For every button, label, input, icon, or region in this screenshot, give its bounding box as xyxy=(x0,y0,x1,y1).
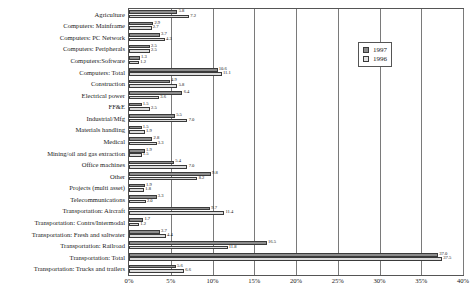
chart-row: Computers: Mainframe2.92.7 xyxy=(129,21,463,33)
bar-1997 xyxy=(129,161,174,165)
legend-item: 1996 xyxy=(363,55,387,64)
category-label: Transportation: Aircraft xyxy=(62,208,125,215)
chart-row: Agriculture5.87.2 xyxy=(129,9,463,21)
category-label: Agriculture xyxy=(95,11,125,18)
bar-1997 xyxy=(129,22,153,26)
chart-row: Computers: Total10.611.1 xyxy=(129,67,463,79)
bar-value-label: 8.2 xyxy=(199,176,205,181)
plot-area: Agriculture5.87.2Computers: Mainframe2.9… xyxy=(128,8,464,276)
bar-value-label: 7.0 xyxy=(189,164,195,169)
bar-1997 xyxy=(129,114,175,118)
chart-row: Electrical power6.43.6 xyxy=(129,90,463,102)
chart-row: Projects (multi asset)1.91.8 xyxy=(129,182,463,194)
bar-1996 xyxy=(129,223,139,227)
bar-value-label: 6.4 xyxy=(184,90,190,95)
bar-1996 xyxy=(129,38,165,42)
bar-1996 xyxy=(129,72,222,76)
bar-value-label: 2.0 xyxy=(147,199,153,204)
category-rows: Agriculture5.87.2Computers: Mainframe2.9… xyxy=(129,9,463,275)
chart-row: Materials handling1.51.9 xyxy=(129,125,463,137)
bar-1996 xyxy=(129,119,187,123)
category-label: Construction xyxy=(91,81,125,88)
category-label: Computers: PC Network xyxy=(60,35,125,42)
bar-1996 xyxy=(129,61,139,65)
bar-value-label: 1.2 xyxy=(140,60,146,65)
bar-value-label: 11.4 xyxy=(225,210,233,215)
bar-chart: Agriculture5.87.2Computers: Mainframe2.9… xyxy=(0,0,474,305)
x-axis-tick-label: 5% xyxy=(166,278,175,285)
category-label: Transportation: Total xyxy=(70,254,125,261)
chart-row: Computers:Software1.31.2 xyxy=(129,55,463,67)
chart-row: Transportation: Trucks and trailers5.66.… xyxy=(129,263,463,275)
bar-1996 xyxy=(129,153,142,157)
legend-swatch-icon xyxy=(363,47,369,53)
chart-row: Office machines5.47.0 xyxy=(129,159,463,171)
bar-1997 xyxy=(129,68,218,72)
category-label: Materials handling xyxy=(75,127,125,134)
category-label: Transportation: Trucks and trailers xyxy=(34,266,125,273)
chart-row: Transportation: Total37.037.5 xyxy=(129,252,463,264)
category-label: Industrial/Mfg xyxy=(87,116,125,123)
x-axis: 0%5%10%15%20%25%30%35%40% xyxy=(128,278,464,292)
category-label: Transportation: Railroad xyxy=(60,243,125,250)
category-label: Computers: Total xyxy=(79,69,125,76)
bar-1997 xyxy=(129,265,176,269)
category-label: Telecommunications xyxy=(70,197,125,204)
bar-1997 xyxy=(129,91,182,95)
chart-row: Transportation: Contrs/Intermodal1.71.2 xyxy=(129,217,463,229)
category-label: FF&E xyxy=(109,104,126,111)
bar-value-label: 7.0 xyxy=(189,118,195,123)
bar-1997 xyxy=(129,126,142,130)
legend-item-label: 1996 xyxy=(373,56,387,63)
chart-row: Medical2.83.3 xyxy=(129,136,463,148)
bar-value-label: 37.5 xyxy=(443,256,451,261)
bar-value-label: 5.8 xyxy=(179,83,185,88)
bar-value-label: 3.3 xyxy=(158,141,164,146)
bar-1997 xyxy=(129,253,438,257)
chart-row: Transportation: Railroad16.511.8 xyxy=(129,240,463,252)
legend: 1997 1996 xyxy=(358,42,392,67)
bar-1996 xyxy=(129,246,228,250)
bar-value-label: 5.8 xyxy=(179,9,185,14)
gridline xyxy=(463,9,464,275)
bar-1997 xyxy=(129,207,210,211)
legend-swatch-icon xyxy=(363,56,369,62)
x-axis-tick-label: 20% xyxy=(290,278,302,285)
bar-value-label: 11.1 xyxy=(223,71,231,76)
chart-row: Transportation: Fresh and saltwater3.74.… xyxy=(129,229,463,241)
chart-row: Construction4.95.8 xyxy=(129,78,463,90)
bar-1997 xyxy=(129,80,170,84)
bar-value-label: 9.8 xyxy=(212,171,218,176)
bar-value-label: 9.7 xyxy=(211,206,217,211)
x-axis-tick-label: 30% xyxy=(373,278,385,285)
x-axis-tick-label: 40% xyxy=(457,278,469,285)
bar-1996 xyxy=(129,188,144,192)
bar-1996 xyxy=(129,200,146,204)
bar-1996 xyxy=(129,49,150,53)
bar-value-label: 7.2 xyxy=(190,14,196,19)
bar-value-label: 3.6 xyxy=(160,95,166,100)
legend-item-label: 1997 xyxy=(373,47,387,54)
x-axis-tick-label: 25% xyxy=(332,278,344,285)
bar-value-label: 4.4 xyxy=(167,233,173,238)
category-label: Medical xyxy=(103,139,125,146)
bar-1996 xyxy=(129,257,442,261)
bar-value-label: 1.8 xyxy=(145,187,151,192)
bar-value-label: 5.6 xyxy=(177,264,183,269)
bar-value-label: 16.5 xyxy=(268,240,276,245)
legend-item: 1997 xyxy=(363,46,387,55)
x-axis-tick-label: 15% xyxy=(248,278,260,285)
x-axis-tick-label: 35% xyxy=(415,278,427,285)
bar-value-label: 2.5 xyxy=(151,106,157,111)
bar-1996 xyxy=(129,107,150,111)
bar-value-label: 4.3 xyxy=(166,37,172,42)
bar-value-label: 5.5 xyxy=(176,113,182,118)
category-label: Office machines xyxy=(82,162,125,169)
chart-row: Other9.88.2 xyxy=(129,171,463,183)
bar-1996 xyxy=(129,26,152,30)
category-label: Other xyxy=(110,173,125,180)
bar-value-label: 6.6 xyxy=(185,268,191,273)
bar-1996 xyxy=(129,130,145,134)
bar-1996 xyxy=(129,177,197,181)
bar-1996 xyxy=(129,234,166,238)
